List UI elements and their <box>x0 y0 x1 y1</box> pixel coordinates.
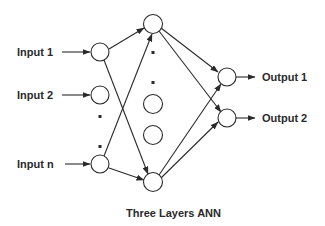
output-node-1 <box>218 68 236 86</box>
hidden-ellipsis-dot <box>152 81 155 84</box>
output-label-2: Output 2 <box>262 112 307 124</box>
edge-inn-hlast <box>109 168 144 180</box>
hidden-node-last <box>144 173 163 192</box>
edge-in1-h1 <box>109 28 144 49</box>
output-label-1: Output 1 <box>262 71 307 83</box>
edge-h1-out1 <box>161 28 218 72</box>
hidden-node-mid-1 <box>144 95 163 114</box>
input-label-n: Input n <box>17 158 54 170</box>
output-node-2 <box>218 109 236 127</box>
input-ellipsis-dot <box>99 115 102 118</box>
hidden-node-1 <box>144 15 163 34</box>
ann-diagram: Input 1 Input 2 Input n Output 1 Output … <box>0 0 325 226</box>
edge-in1-hlast <box>104 60 148 174</box>
diagram-caption: Three Layers ANN <box>126 207 221 219</box>
input-label-2: Input 2 <box>17 89 53 101</box>
input-node-2 <box>91 86 109 104</box>
edge-hlast-out1 <box>159 84 221 175</box>
hidden-node-mid-2 <box>144 126 163 145</box>
input-ellipsis-dot <box>99 145 102 148</box>
hidden-ellipsis-dot <box>152 51 155 54</box>
input-label-1: Input 1 <box>17 46 53 58</box>
input-node-n <box>91 155 109 173</box>
input-node-1 <box>91 43 109 61</box>
edge-h1-out2 <box>159 31 221 112</box>
